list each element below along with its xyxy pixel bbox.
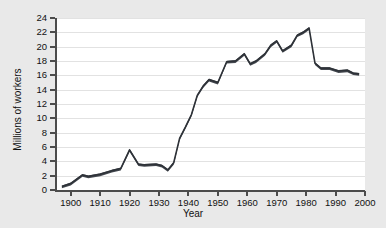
- x-tick: [305, 191, 307, 196]
- chart-figure: 024681012141618202224 190019101920193019…: [0, 0, 386, 228]
- y-tick: [50, 17, 55, 19]
- x-tick: [246, 191, 248, 196]
- gridline: [56, 161, 365, 162]
- y-tick-label: 0: [0, 185, 47, 194]
- y-tick: [50, 31, 55, 33]
- y-axis-line: [55, 18, 57, 191]
- gridline: [56, 90, 365, 91]
- y-tick-label: 14: [0, 85, 47, 94]
- x-tick: [158, 191, 160, 196]
- y-tick-label: 22: [0, 27, 47, 36]
- gridline: [56, 104, 365, 105]
- y-tick: [50, 60, 55, 62]
- y-tick-label: 24: [0, 13, 47, 22]
- y-tick-label: 20: [0, 42, 47, 51]
- y-tick: [50, 160, 55, 162]
- x-tick-label: 2000: [348, 197, 382, 208]
- y-tick: [50, 189, 55, 191]
- y-tick: [50, 74, 55, 76]
- y-tick-label: 10: [0, 113, 47, 122]
- x-tick: [276, 191, 278, 196]
- y-tick: [50, 103, 55, 105]
- gridlines: [56, 18, 365, 190]
- y-tick-label: 12: [0, 99, 47, 108]
- x-tick: [187, 191, 189, 196]
- gridline: [56, 133, 365, 134]
- x-tick: [335, 191, 337, 196]
- gridline: [56, 118, 365, 119]
- y-tick-label: 6: [0, 142, 47, 151]
- x-axis-title: Year: [0, 208, 386, 219]
- gridline: [56, 176, 365, 177]
- y-tick-label: 2: [0, 171, 47, 180]
- y-tick: [50, 46, 55, 48]
- y-tick-label: 4: [0, 156, 47, 165]
- x-axis-line: [55, 190, 365, 192]
- gridline: [56, 18, 365, 19]
- y-tick-label: 18: [0, 56, 47, 65]
- plot-area: [56, 18, 365, 190]
- y-tick: [50, 132, 55, 134]
- gridline: [56, 147, 365, 148]
- x-tick: [217, 191, 219, 196]
- y-tick: [50, 175, 55, 177]
- gridline: [56, 47, 365, 48]
- y-tick: [50, 146, 55, 148]
- x-tick: [99, 191, 101, 196]
- gridline: [56, 75, 365, 76]
- x-tick: [70, 191, 72, 196]
- x-tick: [364, 191, 366, 196]
- y-tick-label: 16: [0, 70, 47, 79]
- y-axis-title: Millions of workers: [12, 50, 23, 170]
- gridline: [56, 32, 365, 33]
- y-tick: [50, 117, 55, 119]
- y-tick-label: 8: [0, 128, 47, 137]
- y-tick: [50, 89, 55, 91]
- gridline: [56, 61, 365, 62]
- x-tick: [129, 191, 131, 196]
